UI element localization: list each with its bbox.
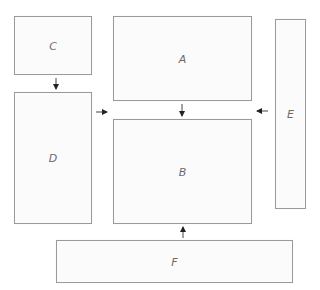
node-d: D [14,92,92,224]
node-a-label: A [114,52,251,65]
node-a: A [113,16,252,101]
node-f: F [56,240,293,283]
node-b: B [113,119,252,224]
node-c-label: C [15,39,91,52]
node-d-label: D [15,152,91,165]
node-e-label: E [276,108,305,121]
node-f-label: F [57,255,292,268]
node-e: E [275,19,306,209]
node-c: C [14,16,92,75]
node-b-label: B [114,165,251,178]
